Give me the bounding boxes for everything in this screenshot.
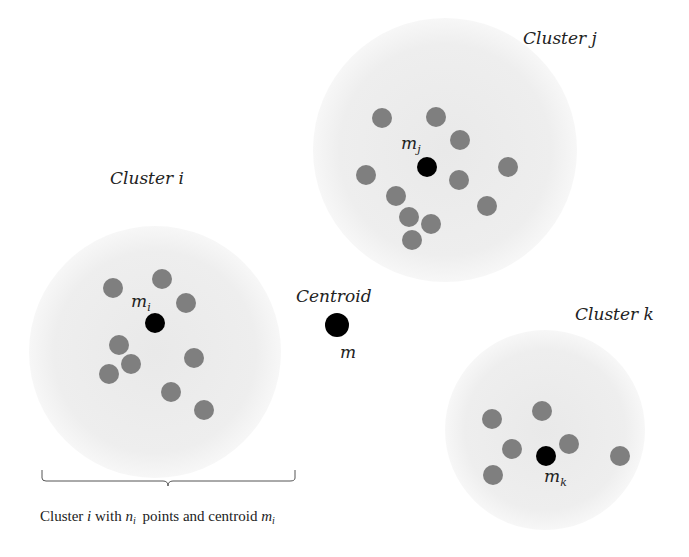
cluster-j-point [450,130,470,150]
cluster-i-title: Cluster i [110,168,184,188]
cluster-k-point [559,434,579,454]
cluster-i-point [121,354,141,374]
cluster-k-point [502,439,522,459]
cluster-j-point [356,165,376,185]
cluster-j-centroid [417,157,437,177]
cluster-i-point [161,382,181,402]
cluster-diagram: Cluster i Cluster j Cluster k mi mj mk C… [0,0,689,557]
cluster-i-point [194,400,214,420]
global-centroid-label: m [340,342,356,362]
global-centroid-dot [325,313,349,337]
cluster-j-point [399,207,419,227]
cluster-i-point [152,269,172,289]
cluster-j-point [498,157,518,177]
cluster-i-point [176,293,196,313]
cluster-j-point [449,170,469,190]
cluster-j-title: Cluster j [523,28,598,48]
cluster-i-point [99,364,119,384]
cluster-k-point [532,401,552,421]
cluster-i-region [29,226,281,478]
cluster-j-point [421,214,441,234]
diagram-svg: Cluster i Cluster j Cluster k mi mj mk C… [0,0,689,557]
cluster-k-centroid [536,446,556,466]
cluster-j-region [313,18,577,282]
cluster-j-point [402,230,422,250]
cluster-j-point [426,107,446,127]
cluster-k-title: Cluster k [575,304,654,324]
caption: Cluster i with ni points and centroid mi [40,508,275,526]
cluster-i-point [103,278,123,298]
cluster-i-centroid [145,313,165,333]
cluster-k-point [610,446,630,466]
cluster-k-point [483,465,503,485]
cluster-k-region [445,330,645,530]
cluster-j-point [372,108,392,128]
cluster-i-point [109,335,129,355]
cluster-i-point [184,348,204,368]
cluster-j-point [386,186,406,206]
cluster-j-point [477,196,497,216]
cluster-k-point [482,409,502,429]
global-centroid-title: Centroid [296,286,372,306]
